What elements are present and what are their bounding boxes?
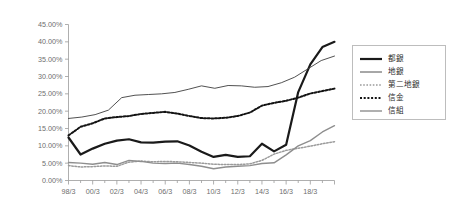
- y-axis-tick-label: 5.00%: [42, 159, 63, 168]
- chart-container: 0.00%5.00%10.00%15.00%20.00%25.00%30.00%…: [0, 0, 457, 214]
- x-axis-tick-label: 10/3: [207, 187, 221, 196]
- legend-item-label: 地銀: [388, 67, 404, 77]
- legend-item-1[interactable]: 都銀: [353, 52, 445, 65]
- legend-item-5[interactable]: 信組: [353, 104, 445, 117]
- legend-line-swatch-icon: [360, 54, 382, 64]
- x-axis-tick-label: 98/3: [62, 187, 76, 196]
- x-axis-tick-label: 12/3: [231, 187, 245, 196]
- x-axis: 98/300/302/304/306/308/310/312/314/316/3…: [62, 181, 335, 196]
- legend-item-label: 信金: [388, 93, 404, 103]
- x-axis-tick-label: 08/3: [182, 187, 196, 196]
- legend-item-3[interactable]: 第二地銀: [353, 78, 445, 91]
- legend-line-swatch-icon: [360, 80, 382, 90]
- x-axis-tick-label: 14/3: [255, 187, 269, 196]
- y-axis-tick-label: 0.00%: [42, 176, 63, 185]
- series-lines: [69, 42, 335, 169]
- chart-legend: 都銀地銀第二地銀信金信組: [352, 45, 446, 120]
- legend-item-label: 都銀: [388, 54, 404, 64]
- legend-item-label: 信組: [388, 106, 404, 116]
- y-axis-tick-label: 45.00%: [38, 20, 63, 29]
- y-axis-tick-label: 15.00%: [38, 124, 63, 133]
- legend-line-swatch-icon: [360, 106, 382, 116]
- legend-item-label: 第二地銀: [388, 80, 420, 90]
- y-axis-tick-label: 40.00%: [38, 37, 63, 46]
- x-axis-tick-label: 02/3: [110, 187, 124, 196]
- series-line: [69, 126, 335, 169]
- y-axis-tick-label: 30.00%: [38, 72, 63, 81]
- x-axis-tick-label: 16/3: [279, 187, 293, 196]
- y-axis: 0.00%5.00%10.00%15.00%20.00%25.00%30.00%…: [38, 20, 68, 185]
- x-axis-tick-label: 04/3: [134, 187, 148, 196]
- legend-line-swatch-icon: [360, 93, 382, 103]
- y-axis-tick-label: 35.00%: [38, 55, 63, 64]
- legend-item-2[interactable]: 地銀: [353, 65, 445, 78]
- legend-line-swatch-icon: [360, 67, 382, 77]
- x-axis-tick-label: 18/3: [303, 187, 317, 196]
- legend-item-4[interactable]: 信金: [353, 91, 445, 104]
- y-axis-tick-label: 20.00%: [38, 107, 63, 116]
- x-axis-tick-label: 00/3: [86, 187, 100, 196]
- x-axis-tick-label: 06/3: [158, 187, 172, 196]
- y-axis-tick-label: 10.00%: [38, 141, 63, 150]
- y-axis-tick-label: 25.00%: [38, 89, 63, 98]
